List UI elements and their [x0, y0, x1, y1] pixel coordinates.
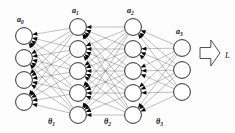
edge-arrowhead-icon	[32, 54, 37, 58]
neuron-node-1-5	[70, 107, 87, 124]
layer-label-layer-0: a0	[17, 15, 24, 25]
neuron-node-2-2	[125, 41, 142, 58]
edge-arrowhead-icon	[32, 32, 37, 36]
neuron-node-1-1	[70, 19, 87, 36]
edge-arrowhead-icon	[32, 98, 37, 102]
edge-arrowhead-icon	[86, 96, 91, 100]
connection-edge	[32, 104, 70, 113]
weight-label-theta-2: θ2	[104, 117, 111, 127]
edges-group	[29, 27, 177, 115]
edge-arrowhead-icon	[86, 42, 91, 46]
weight-label-theta-3: θ3	[156, 117, 163, 127]
edge-arrowhead-icon	[141, 47, 146, 51]
neuron-node-3-3	[174, 84, 191, 101]
edge-arrowhead-icon	[32, 103, 37, 107]
layer-label-subscript: 2	[130, 10, 134, 16]
edge-arrowhead-icon	[32, 37, 37, 41]
weight-label-subscript: 3	[159, 121, 163, 127]
loss-label: L	[224, 50, 230, 60]
edge-arrowhead-icon	[86, 47, 91, 51]
connection-edge	[138, 55, 177, 108]
edge-arrowhead-icon	[141, 91, 146, 95]
layer-label-layer-2: a2	[127, 6, 134, 16]
network-canvas: a0a1a2a3θ1θ2θ3 L	[0, 0, 235, 133]
layer-label-subscript: 0	[21, 19, 24, 25]
connection-edge	[141, 30, 175, 44]
neuron-node-2-3	[125, 63, 142, 80]
edge-arrowhead-icon	[32, 59, 37, 63]
block-arrow-right-icon	[200, 40, 220, 66]
neuron-node-2-5	[125, 107, 142, 124]
weight-label-subscript: 1	[52, 121, 55, 127]
neuron-node-1-2	[70, 41, 87, 58]
edge-arrowhead-icon	[86, 113, 91, 117]
neuron-node-1-4	[70, 85, 87, 102]
neuron-node-0-3	[16, 72, 33, 89]
connection-edge	[32, 94, 69, 100]
edge-arrowhead-icon	[32, 76, 37, 80]
neuron-node-3-2	[174, 62, 191, 79]
neuron-node-2-4	[125, 85, 142, 102]
edge-arrowhead-icon	[141, 69, 146, 73]
weight-label-subscript: 2	[107, 121, 111, 127]
layer-label-subscript: 3	[179, 31, 183, 37]
edge-arrowhead-icon	[31, 85, 36, 89]
neuron-node-2-1	[125, 19, 142, 36]
connection-edge	[32, 28, 69, 34]
neuron-node-0-4	[16, 94, 33, 111]
loss-arrow-group: L	[200, 40, 230, 66]
weight-label-theta-1: θ1	[48, 117, 55, 127]
neuron-node-0-2	[16, 50, 33, 67]
layer-label-layer-1: a1	[72, 6, 79, 16]
edge-arrowhead-icon	[86, 25, 91, 29]
layer-label-layer-3: a3	[176, 27, 183, 37]
edge-arrowhead-icon	[86, 69, 91, 73]
neural-network-diagram: a0a1a2a3θ1θ2θ3 L	[0, 0, 235, 133]
neuron-node-1-3	[70, 63, 87, 80]
edge-arrowhead-icon	[31, 50, 36, 54]
layer-label-subscript: 1	[76, 10, 79, 16]
edge-arrowhead-icon	[86, 91, 91, 95]
neuron-node-0-1	[16, 28, 33, 45]
neuron-node-3-1	[174, 40, 191, 57]
